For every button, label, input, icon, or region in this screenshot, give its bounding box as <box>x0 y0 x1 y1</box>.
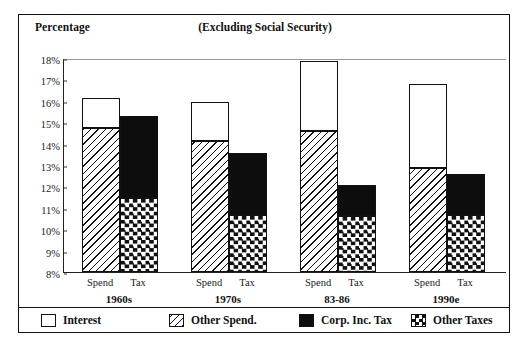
y-tick-mark <box>64 124 67 125</box>
y-tick-mark <box>64 60 67 61</box>
y-tick-label: 18% <box>41 55 60 66</box>
legend-swatch-hatch <box>169 314 184 327</box>
y-tick-label: 8% <box>46 269 60 280</box>
x-group-label: 83-86 <box>287 293 387 305</box>
x-group-label: 1960s <box>69 293 169 305</box>
bar-segment <box>191 102 229 142</box>
y-tick-mark <box>64 252 67 253</box>
y-tick-mark <box>64 102 67 103</box>
legend-label: Other Spend. <box>191 314 257 326</box>
bar-segment <box>409 168 447 272</box>
y-tick-mark <box>64 231 67 232</box>
bar-1970s-tax <box>229 153 267 272</box>
chart-figure: Percentage (Excluding Social Security) 1… <box>0 0 527 347</box>
chart-legend: InterestOther Spend.Corp. Inc. TaxOther … <box>19 307 511 333</box>
y-tick-label: 16% <box>41 97 60 108</box>
bar-segment <box>229 215 267 272</box>
plot-area: 18%17%16%15%14%13%12%11%10%9%8% <box>63 59 506 273</box>
legend-swatch-white <box>41 314 56 327</box>
x-group-label: 1990e <box>396 293 496 305</box>
bar-1960s-tax <box>120 116 158 272</box>
legend-swatch-black <box>299 314 314 327</box>
y-tick-label: 10% <box>41 226 60 237</box>
legend-item[interactable]: Other Spend. <box>169 314 257 327</box>
y-tick-label: 9% <box>46 247 60 258</box>
bar-segment <box>82 98 120 128</box>
bar-segment <box>82 128 120 272</box>
y-tick-mark <box>64 209 67 210</box>
y-tick-mark <box>64 167 67 168</box>
bar-83-86-spend <box>300 61 338 272</box>
bar-1960s-spend <box>82 98 120 272</box>
y-tick-label: 15% <box>41 119 60 130</box>
bar-1970s-spend <box>191 102 229 272</box>
bar-83-86-tax <box>338 185 376 272</box>
bar-segment <box>300 131 338 272</box>
y-tick-label: 12% <box>41 183 60 194</box>
legend-label: Other Taxes <box>433 314 493 326</box>
bar-segment <box>300 61 338 131</box>
legend-label: Corp. Inc. Tax <box>321 314 392 326</box>
bar-segment <box>447 215 485 272</box>
y-tick-mark <box>64 274 67 275</box>
bar-segment <box>409 84 447 169</box>
y-tick-mark <box>64 188 67 189</box>
bar-segment <box>338 185 376 216</box>
y-tick-label: 11% <box>41 204 60 215</box>
bar-1990e-tax <box>447 174 485 272</box>
bar-1990e-spend <box>409 84 447 272</box>
y-tick-mark <box>64 81 67 82</box>
x-tick-label: Tax <box>329 277 383 288</box>
x-tick-label: Tax <box>220 277 274 288</box>
bar-segment <box>229 153 267 215</box>
legend-item[interactable]: Corp. Inc. Tax <box>299 314 392 327</box>
bar-segment <box>338 216 376 272</box>
chart-frame: Percentage (Excluding Social Security) 1… <box>18 14 510 333</box>
x-group-label: 1970s <box>178 293 278 305</box>
legend-swatch-check <box>411 314 426 327</box>
bar-segment <box>191 141 229 272</box>
legend-label: Interest <box>63 314 101 326</box>
y-tick-label: 13% <box>41 162 60 173</box>
y-tick-mark <box>64 145 67 146</box>
y-tick-label: 14% <box>41 140 60 151</box>
legend-item[interactable]: Other Taxes <box>411 314 493 327</box>
chart-subtitle: (Excluding Social Security) <box>19 21 511 33</box>
bar-segment <box>120 116 158 198</box>
chart-header: Percentage (Excluding Social Security) <box>19 15 511 45</box>
x-tick-label: Tax <box>111 277 165 288</box>
bar-segment <box>120 198 158 272</box>
bar-segment <box>447 174 485 216</box>
x-tick-label: Tax <box>438 277 492 288</box>
y-tick-label: 17% <box>41 76 60 87</box>
legend-item[interactable]: Interest <box>41 314 101 327</box>
